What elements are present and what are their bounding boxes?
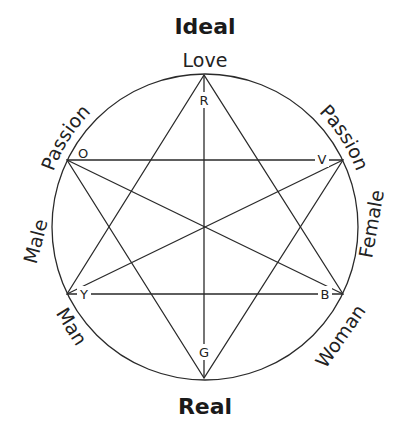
vertex-label-o: O [78, 146, 88, 161]
vertex-label-b: B [321, 287, 330, 302]
vertex-label-g: G [199, 345, 209, 360]
hexagram-diagram: Ideal Love R G O V Y B Passion Passion M… [0, 0, 403, 437]
vertex-label-v: V [318, 152, 327, 167]
vertex-label-r: R [199, 93, 208, 108]
vertex-label-y: Y [79, 287, 88, 302]
woman-label: Woman [311, 300, 370, 371]
female-label: Female [354, 188, 388, 259]
man-label: Man [52, 303, 92, 349]
real-title: Real [178, 394, 232, 419]
passion-left-label: Passion [37, 100, 95, 173]
ideal-title: Ideal [174, 14, 235, 39]
love-label: Love [183, 49, 228, 71]
male-label: Male [19, 217, 52, 266]
